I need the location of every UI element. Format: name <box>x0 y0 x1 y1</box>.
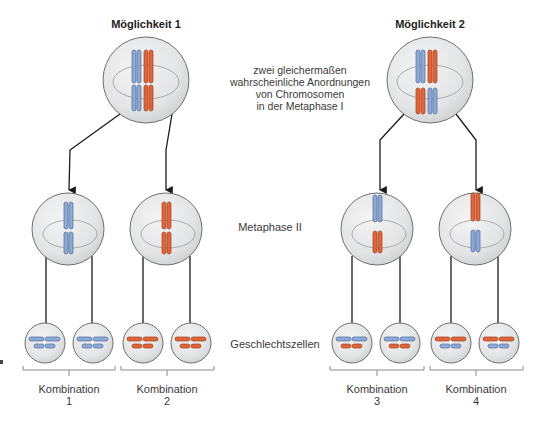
metaphase2-cell-4 <box>439 193 511 265</box>
combination-2-label: Kombination 2 <box>127 383 207 407</box>
metaphase1-cell-possibility-2 <box>387 37 473 123</box>
possibility-1-title: Möglichkeit 1 <box>96 18 196 30</box>
note-line-2: wahrscheinliche Anordnungen <box>225 76 375 88</box>
combination-text: Kombination <box>127 383 207 395</box>
combination-text: Kombination <box>436 383 516 395</box>
combination-1-label: Kombination 1 <box>29 383 109 407</box>
combination-text: Kombination <box>29 383 109 395</box>
note-line-1: zwei gleichermaßen <box>225 64 375 76</box>
gamete-5 <box>332 323 372 363</box>
metaphase2-cell-2 <box>130 193 202 265</box>
gametes-label: Geschlechtszellen <box>225 338 325 350</box>
combination-number: 1 <box>29 395 109 407</box>
gamete-8 <box>479 323 519 363</box>
metaphase1-note: zwei gleichermaßen wahrscheinliche Anord… <box>225 64 375 112</box>
combination-text: Kombination <box>337 383 417 395</box>
combination-number: 2 <box>127 395 207 407</box>
metaphase2-cell-1 <box>32 193 104 265</box>
note-line-4: in der Metaphase I <box>225 100 375 112</box>
metaphase1-cell-possibility-1 <box>103 37 189 123</box>
combination-number: 3 <box>337 395 417 407</box>
edge-mark <box>0 360 3 364</box>
gamete-4 <box>171 323 211 363</box>
gametes-possibility-1 <box>25 323 211 363</box>
note-line-3: von Chromosomen <box>225 88 375 100</box>
metaphase2-label: Metaphase II <box>230 221 310 233</box>
combination-number: 4 <box>436 395 516 407</box>
gamete-7 <box>431 323 471 363</box>
possibility-2-title: Möglichkeit 2 <box>380 18 480 30</box>
combination-3-label: Kombination 3 <box>337 383 417 407</box>
gamete-3 <box>123 323 163 363</box>
gamete-2 <box>73 323 113 363</box>
combination-brackets <box>23 366 523 376</box>
gamete-6 <box>380 323 420 363</box>
gametes-possibility-2 <box>332 323 519 363</box>
gamete-1 <box>25 323 65 363</box>
combination-4-label: Kombination 4 <box>436 383 516 407</box>
metaphase2-cell-3 <box>341 193 413 265</box>
